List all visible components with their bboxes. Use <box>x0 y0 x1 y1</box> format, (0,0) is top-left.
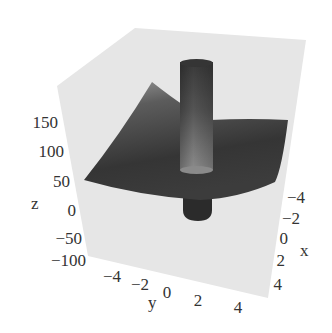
z-tick: −50 <box>55 229 82 248</box>
z-tick: 50 <box>53 172 70 191</box>
z-tick: 0 <box>68 201 77 220</box>
x-tick: −2 <box>282 209 300 228</box>
y-tick: 0 <box>163 283 172 302</box>
x-axis-label: x <box>300 241 309 260</box>
x-tick: 4 <box>274 275 283 294</box>
cylinder-upper <box>180 59 213 174</box>
z-tick: 150 <box>33 113 59 132</box>
y-tick: −2 <box>131 275 149 294</box>
x-tick: 0 <box>280 229 289 248</box>
y-tick: −4 <box>103 267 122 286</box>
y-tick: 4 <box>234 298 243 317</box>
z-axis-label: z <box>31 194 39 213</box>
x-tick: 2 <box>277 251 286 270</box>
surface-plot: 150 100 50 0 −50 −100 z −4 −2 0 2 4 y −4… <box>0 0 332 333</box>
y-tick: 2 <box>194 291 203 310</box>
z-tick: −100 <box>51 251 86 270</box>
z-tick: 100 <box>39 142 65 161</box>
y-axis-label: y <box>148 293 157 312</box>
x-tick: −4 <box>287 188 306 207</box>
